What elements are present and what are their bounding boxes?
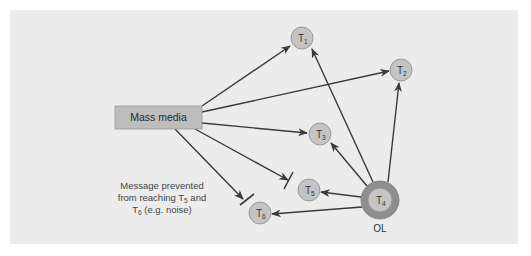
node-t6: T6 xyxy=(249,202,271,224)
edge-media-t1 xyxy=(202,46,290,106)
mass-media-box: Mass media xyxy=(115,106,202,129)
node-t5: T5 xyxy=(298,179,320,201)
noise-note: Message prevented from reaching T5 and T… xyxy=(118,180,206,216)
edge-media-t2 xyxy=(202,71,389,112)
block-bar-t6 xyxy=(240,194,254,205)
opinion-leader-label: OL xyxy=(373,223,387,234)
node-t1: T1 xyxy=(291,27,313,49)
note-line-3: T6 (e.g. noise) xyxy=(132,204,192,216)
edge-media-t5 xyxy=(195,129,288,180)
edge-t4-t6 xyxy=(272,207,362,214)
edge-media-t3 xyxy=(202,123,307,133)
edge-t4-t2 xyxy=(388,83,399,182)
node-t2: T2 xyxy=(390,59,412,81)
diagram-canvas: Mass media T1 T2 T3 T5 T6 T4 OL Message … xyxy=(0,0,531,256)
mass-media-label: Mass media xyxy=(130,111,187,123)
edge-t4-t3 xyxy=(331,143,367,186)
node-t4-opinion-leader: T4 xyxy=(361,181,399,219)
edges-mass-media xyxy=(175,46,389,199)
node-t3: T3 xyxy=(309,123,331,145)
block-bar-t5 xyxy=(284,172,293,189)
edge-t4-t5 xyxy=(321,192,361,197)
note-line-2: from reaching T5 and xyxy=(118,192,206,204)
note-line-1: Message prevented xyxy=(120,180,203,191)
blocking-bars xyxy=(240,172,293,205)
edge-t4-t1 xyxy=(312,49,373,182)
